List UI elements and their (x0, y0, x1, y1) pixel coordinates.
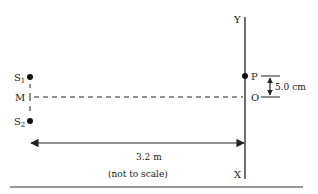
screen-top-label: Y (233, 14, 241, 25)
midpoint-label: M (15, 92, 25, 103)
separation-label: 5.0 cm (275, 82, 306, 92)
s2-dot (27, 118, 33, 124)
point-p-dot (242, 73, 248, 79)
diagram-canvas: S1 M S2 Y X P O 5.0 cm 3.2 m (not to sca… (0, 0, 318, 194)
not-to-scale-note: (not to scale) (108, 169, 168, 179)
source-s1: S1 (14, 72, 33, 85)
point-o-label: O (251, 92, 259, 103)
s1-label: S1 (14, 72, 25, 85)
distance-label: 3.2 m (136, 152, 162, 162)
s2-label: S2 (14, 116, 25, 129)
source-s2: S2 (14, 116, 33, 129)
separation-dimension: 5.0 cm (261, 76, 306, 97)
point-p-label: P (251, 71, 258, 82)
s1-dot (27, 74, 33, 80)
screen-bottom-label: X (234, 169, 242, 180)
